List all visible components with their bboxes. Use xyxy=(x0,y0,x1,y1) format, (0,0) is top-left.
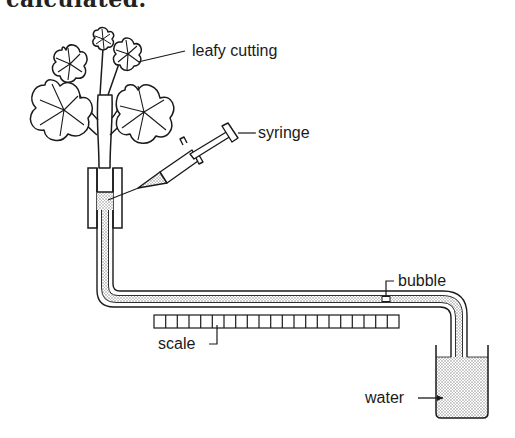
bubble-leader-line xyxy=(386,281,394,296)
leafy-cutting-leader-line xyxy=(138,51,185,62)
label-syringe: syringe xyxy=(258,124,310,141)
potometer-diagram: leafy cutting bubble xyxy=(0,0,515,438)
label-scale: scale xyxy=(158,335,195,352)
label-bubble: bubble xyxy=(398,272,446,289)
measurement-scale xyxy=(154,315,399,328)
air-bubble xyxy=(382,297,390,302)
leafy-cutting-icon xyxy=(30,28,173,168)
capillary-tube xyxy=(97,210,467,398)
label-leafy-cutting: leafy cutting xyxy=(192,42,277,59)
label-water: water xyxy=(364,389,405,406)
